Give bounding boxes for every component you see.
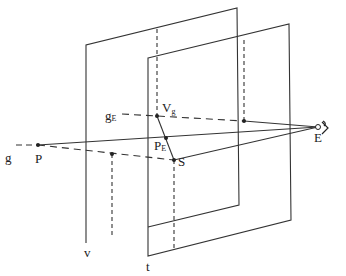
point-P-foot — [110, 152, 114, 156]
point-P — [36, 143, 40, 147]
point-gE-foot — [242, 119, 246, 123]
label-S: S — [178, 154, 185, 169]
perspective-diagram: g P gE Vg PE S E v t — [0, 0, 346, 276]
label-g: g — [5, 150, 12, 165]
line-gE-solid — [244, 121, 318, 127]
eye-icon — [322, 121, 328, 134]
label-E: E — [314, 130, 322, 145]
label-P: P — [35, 151, 42, 166]
point-PE — [164, 136, 168, 140]
line-g-solid — [38, 127, 318, 145]
label-PE: PE — [154, 138, 166, 153]
point-Vg — [155, 114, 159, 118]
point-E — [316, 125, 321, 130]
label-gE: gE — [105, 108, 117, 123]
label-t: t — [146, 259, 150, 274]
label-v: v — [84, 245, 91, 260]
plane-t — [148, 24, 291, 256]
point-S — [172, 158, 176, 162]
plane-v — [86, 8, 239, 243]
line-gE-dashed — [122, 114, 244, 121]
label-Vg: Vg — [162, 100, 175, 116]
